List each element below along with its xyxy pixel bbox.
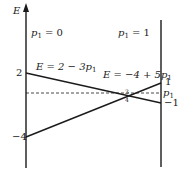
line-e-minus4-plus-5p1 — [26, 83, 161, 137]
left-tick-2: 2 — [16, 68, 22, 78]
right-axis-label: p1 = 1 — [118, 28, 150, 40]
right-tick-1: 1 — [165, 77, 171, 87]
axis-arrow-icon — [23, 3, 29, 12]
left-tick-minus4: −4 — [12, 132, 27, 142]
intersection-numerator: 3 — [125, 89, 129, 95]
axis-label-e: E — [13, 6, 20, 16]
line-a-label: E = 2 − 3p1 — [36, 62, 96, 74]
line-b-label: E = −4 + 5p1 — [103, 70, 172, 82]
left-axis-label: p1 = 0 — [31, 28, 63, 40]
right-tick-minus1: −1 — [164, 98, 179, 108]
intersection-denominator: 4 — [125, 97, 129, 103]
diagram-canvas — [0, 0, 187, 181]
